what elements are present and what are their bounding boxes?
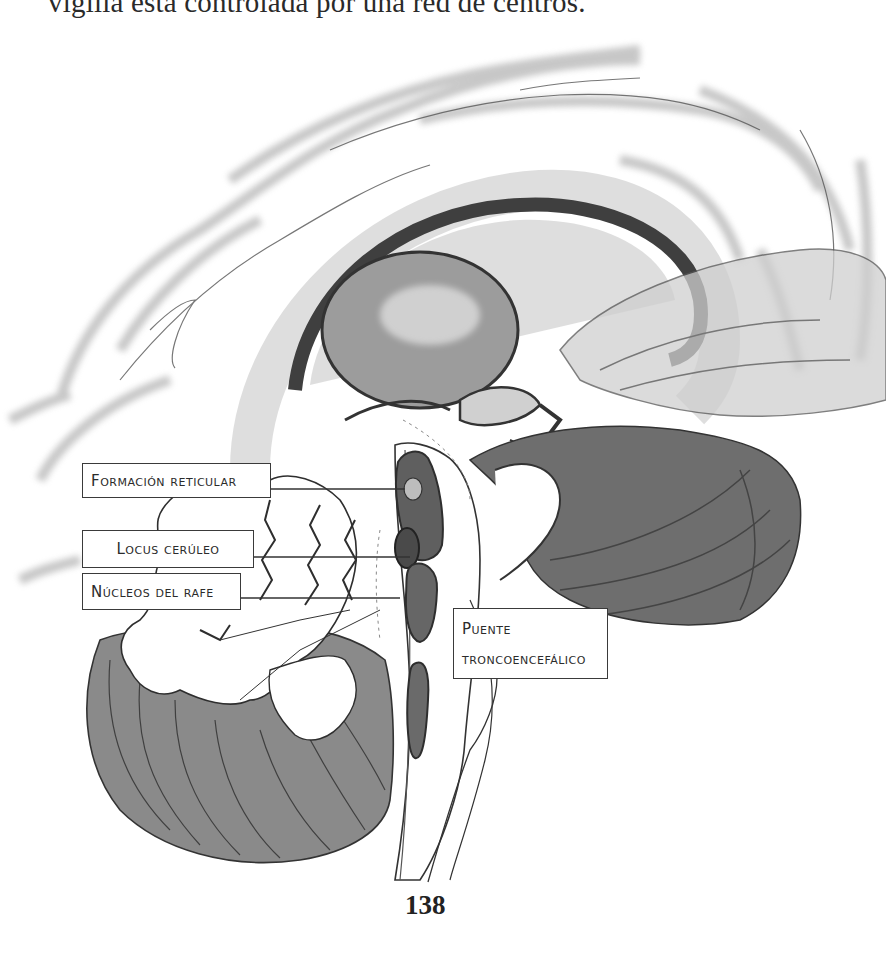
locus-ceruleus-shape	[395, 528, 419, 568]
label-text-line2: troncoencefálico	[462, 644, 586, 674]
page-number: 138	[405, 890, 446, 921]
label-text: Formación reticular	[91, 472, 237, 490]
label-nucleos-rafe: Núcleos del rafe	[82, 573, 241, 610]
label-locus-ceruleo: Locus cerúleo	[82, 530, 254, 568]
label-formacion-reticular: Formación reticular	[82, 463, 271, 498]
label-puente-troncoencefalico: Puente troncoencefálico	[453, 608, 608, 679]
hypothalamus	[460, 387, 540, 425]
label-text: Locus cerúleo	[116, 540, 219, 558]
label-text: Núcleos del rafe	[91, 583, 214, 601]
label-text-line1: Puente	[462, 614, 511, 644]
